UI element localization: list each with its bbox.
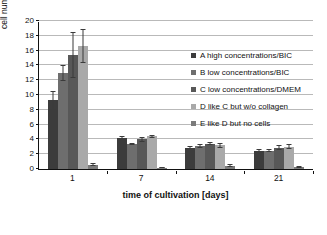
error-bar: [53, 91, 54, 110]
error-bar: [278, 145, 279, 150]
bar-slot: [117, 22, 127, 169]
error-bar: [288, 144, 289, 149]
x-tick-label-14: 14: [176, 171, 245, 187]
x-tick-mark: [313, 171, 314, 174]
x-tick-mark: [244, 171, 245, 174]
bar-slot: [58, 22, 68, 169]
bar-D-day-21: [284, 147, 294, 169]
bar-chart-figure: cell number per scaffold [104] 024681012…: [0, 0, 327, 235]
y-tick-label: 2: [12, 150, 34, 158]
y-tick-label: 8: [12, 106, 34, 114]
error-bar: [151, 135, 152, 138]
x-tick-label-21: 21: [244, 171, 313, 187]
error-bar: [268, 149, 269, 151]
y-tick-label: 12: [12, 76, 34, 84]
gridline: [39, 20, 313, 21]
x-tick-label-1: 1: [38, 171, 107, 187]
error-bar: [93, 163, 94, 165]
bar-group-day-7: [108, 22, 177, 169]
error-bar: [121, 136, 122, 140]
bar-D-day-14: [215, 145, 225, 169]
bar-A-day-7: [117, 138, 127, 169]
y-tick-label: 14: [12, 61, 34, 69]
bar-C-day-14: [205, 144, 215, 169]
bar-slot: [147, 22, 157, 169]
y-tick-label: 20: [12, 17, 34, 25]
bar-C-day-7: [137, 139, 147, 169]
y-tick-label: 18: [12, 32, 34, 40]
x-tick-label-7: 7: [107, 171, 176, 187]
bar-A-day-14: [185, 148, 195, 169]
legend-item-B: B low concentrations/BIC: [191, 64, 327, 81]
y-tick-label: 16: [12, 47, 34, 55]
bar-C-day-21: [274, 148, 284, 169]
chart-legend: A high concentrations/BICB low concentra…: [191, 47, 327, 132]
bar-B-day-14: [195, 146, 205, 169]
bar-D-day-1: [78, 46, 88, 169]
y-axis-title: cell number per scaffold [104]: [0, 0, 9, 34]
y-tick-label: 4: [12, 135, 34, 143]
x-tick-mark: [107, 171, 108, 174]
bar-slot: [127, 22, 137, 169]
x-axis-tick-labels: 171421: [38, 171, 313, 187]
bar-D-day-7: [147, 136, 157, 169]
bar-slot: [88, 22, 98, 169]
bar-B-day-7: [127, 144, 137, 169]
error-bar: [190, 146, 191, 149]
legend-label: B low concentrations/BIC: [200, 68, 289, 77]
y-axis-title-text: cell number per scaffold [10: [0, 0, 9, 29]
legend-item-E: E like D but no cells: [191, 115, 327, 132]
error-bar: [161, 167, 162, 168]
y-tick-mark: [36, 20, 39, 21]
legend-item-C: C low concentrations/DMEM: [191, 81, 327, 98]
error-bar: [83, 29, 84, 63]
bar-slot: [68, 22, 78, 169]
error-bar: [298, 166, 299, 167]
legend-item-A: A high concentrations/BIC: [191, 47, 327, 64]
y-tick-label: 0: [12, 165, 34, 173]
legend-swatch-icon: [191, 121, 196, 126]
legend-label: D like C but w/o collagen: [200, 102, 288, 111]
bar-slot: [157, 22, 167, 169]
legend-label: E like D but no cells: [200, 119, 270, 128]
legend-swatch-icon: [191, 70, 196, 75]
error-bar: [200, 144, 201, 148]
y-tick-label: 10: [12, 91, 34, 99]
y-tick-label: 6: [12, 121, 34, 129]
legend-item-D: D like C but w/o collagen: [191, 98, 327, 115]
legend-swatch-icon: [191, 87, 196, 92]
legend-label: A high concentrations/BIC: [200, 51, 292, 60]
error-bar: [230, 164, 231, 167]
legend-swatch-icon: [191, 104, 196, 109]
bar-A-day-1: [48, 100, 58, 169]
legend-label: C low concentrations/DMEM: [200, 85, 301, 94]
error-bar: [258, 149, 259, 152]
bar-A-day-21: [254, 151, 264, 170]
error-bar: [63, 65, 64, 81]
error-bar: [73, 32, 74, 78]
bar-slot: [78, 22, 88, 169]
bar-slot: [137, 22, 147, 169]
x-tick-mark: [176, 171, 177, 174]
bar-slot: [48, 22, 58, 169]
legend-swatch-icon: [191, 53, 196, 58]
plot-area: 02468101214161820 A high concentrations/…: [38, 22, 313, 170]
bar-group-day-1: [39, 22, 108, 169]
bar-B-day-1: [58, 73, 68, 169]
error-bar: [210, 142, 211, 145]
error-bar: [141, 137, 142, 142]
error-bar: [131, 143, 132, 145]
x-axis-title: time of cultivation [days]: [38, 190, 313, 200]
bar-B-day-21: [264, 151, 274, 170]
error-bar: [220, 143, 221, 148]
